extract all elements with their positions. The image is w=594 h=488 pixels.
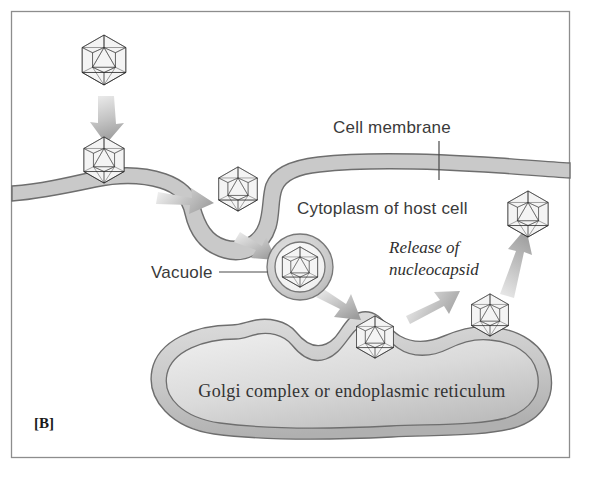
label-cell-membrane: Cell membrane	[333, 118, 451, 137]
arrow-bud-to-release	[500, 228, 532, 298]
diagram-canvas: Cell membrane Cytoplasm of host cell Vac…	[0, 0, 594, 488]
virion-extracellular-top	[82, 35, 126, 85]
virion-in-invagination	[219, 167, 258, 211]
label-release-of: Release of	[388, 238, 462, 257]
arrow-golgi-to-bud	[406, 291, 460, 324]
arrow-virion-descends	[90, 96, 124, 144]
virion-released-nucleocapsid	[508, 191, 548, 237]
label-golgi-complex: Golgi complex or endoplasmic reticulum	[198, 381, 505, 401]
label-nucleocapsid: nucleocapsid	[389, 260, 479, 279]
label-panel-b: [B]	[34, 415, 54, 431]
figure-panel-b: Cell membrane Cytoplasm of host cell Vac…	[0, 0, 594, 488]
arrow-vacuole-to-golgi	[316, 288, 361, 320]
label-cytoplasm-host-cell: Cytoplasm of host cell	[297, 199, 468, 218]
label-vacuole: Vacuole	[151, 263, 213, 282]
virus-particles	[82, 35, 548, 358]
